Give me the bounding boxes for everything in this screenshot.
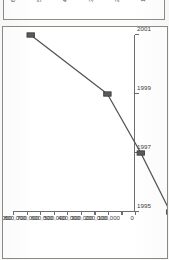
value-axis-tick [81,212,82,216]
plot-area: 0100,000200,000300,000400,000500,000600,… [13,35,135,212]
series-plot [13,35,168,212]
data-point-marker [167,210,168,214]
upper-figure-frame [3,0,165,20]
value-axis-tick-label: 900,000 [2,215,12,221]
value-axis-tick-label: 0 [131,215,134,221]
value-axis-tick [135,212,136,216]
value-axis-tick [94,212,95,216]
main-figure-frame: 0100,000200,000300,000400,000500,000600,… [2,26,168,259]
upper-figure-tick-label: 30 [88,0,94,2]
value-axis-tick [13,212,14,216]
series-markers [27,33,168,214]
series-line [31,35,168,212]
upper-figure-tick-label: 20 [114,0,120,2]
data-point-marker [27,33,34,37]
upper-figure-tick-label: 40 [62,0,68,2]
value-axis-tick [121,212,122,216]
upper-figure-tick-label: 10 [140,0,146,2]
data-point-marker [137,151,144,155]
value-axis-tick [27,212,28,216]
plot-stage: 0100,000200,000300,000400,000500,000600,… [3,27,165,256]
upper-figure-tick-label: 60 [10,0,16,2]
category-axis-tick-label: 2001 [137,26,151,32]
data-point-marker [104,92,111,96]
scanned-page: 605040302010 0100,000200,000300,000400,0… [0,0,169,260]
value-axis-tick [108,212,109,216]
upper-figure-tick-label: 50 [36,0,42,2]
value-axis-tick [67,212,68,216]
value-axis-tick [54,212,55,216]
value-axis-tick [40,212,41,216]
upper-partial-figure: 605040302010 [0,0,169,22]
